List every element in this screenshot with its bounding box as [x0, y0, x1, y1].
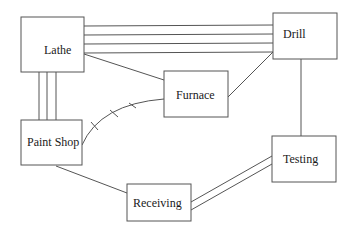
edge-lathe-furnace [84, 54, 164, 80]
node-label-receiving: Receiving [133, 196, 182, 210]
node-label-paint-shop: Paint Shop [27, 135, 79, 149]
node-paint-shop: Paint Shop [21, 120, 82, 165]
edge-lathe-paint-shop [39, 72, 56, 120]
edge-paint-shop-furnace-curved [82, 99, 164, 145]
node-label-furnace: Furnace [176, 88, 215, 102]
node-receiving: Receiving [127, 184, 191, 221]
facility-diagram: Lathe Drill Furnace Paint Shop Receiving… [0, 0, 356, 238]
node-furnace: Furnace [164, 71, 228, 117]
node-lathe: Lathe [21, 17, 84, 72]
node-drill: Drill [273, 13, 337, 59]
edge-paint-shop-receiving [56, 166, 127, 193]
node-label-testing: Testing [283, 152, 318, 166]
node-label-lathe: Lathe [44, 43, 71, 57]
edge-furnace-drill [228, 52, 273, 97]
node-label-drill: Drill [283, 27, 306, 41]
edge-lathe-drill [84, 25, 273, 53]
edge-receiving-testing [191, 156, 272, 210]
node-testing: Testing [272, 136, 336, 182]
